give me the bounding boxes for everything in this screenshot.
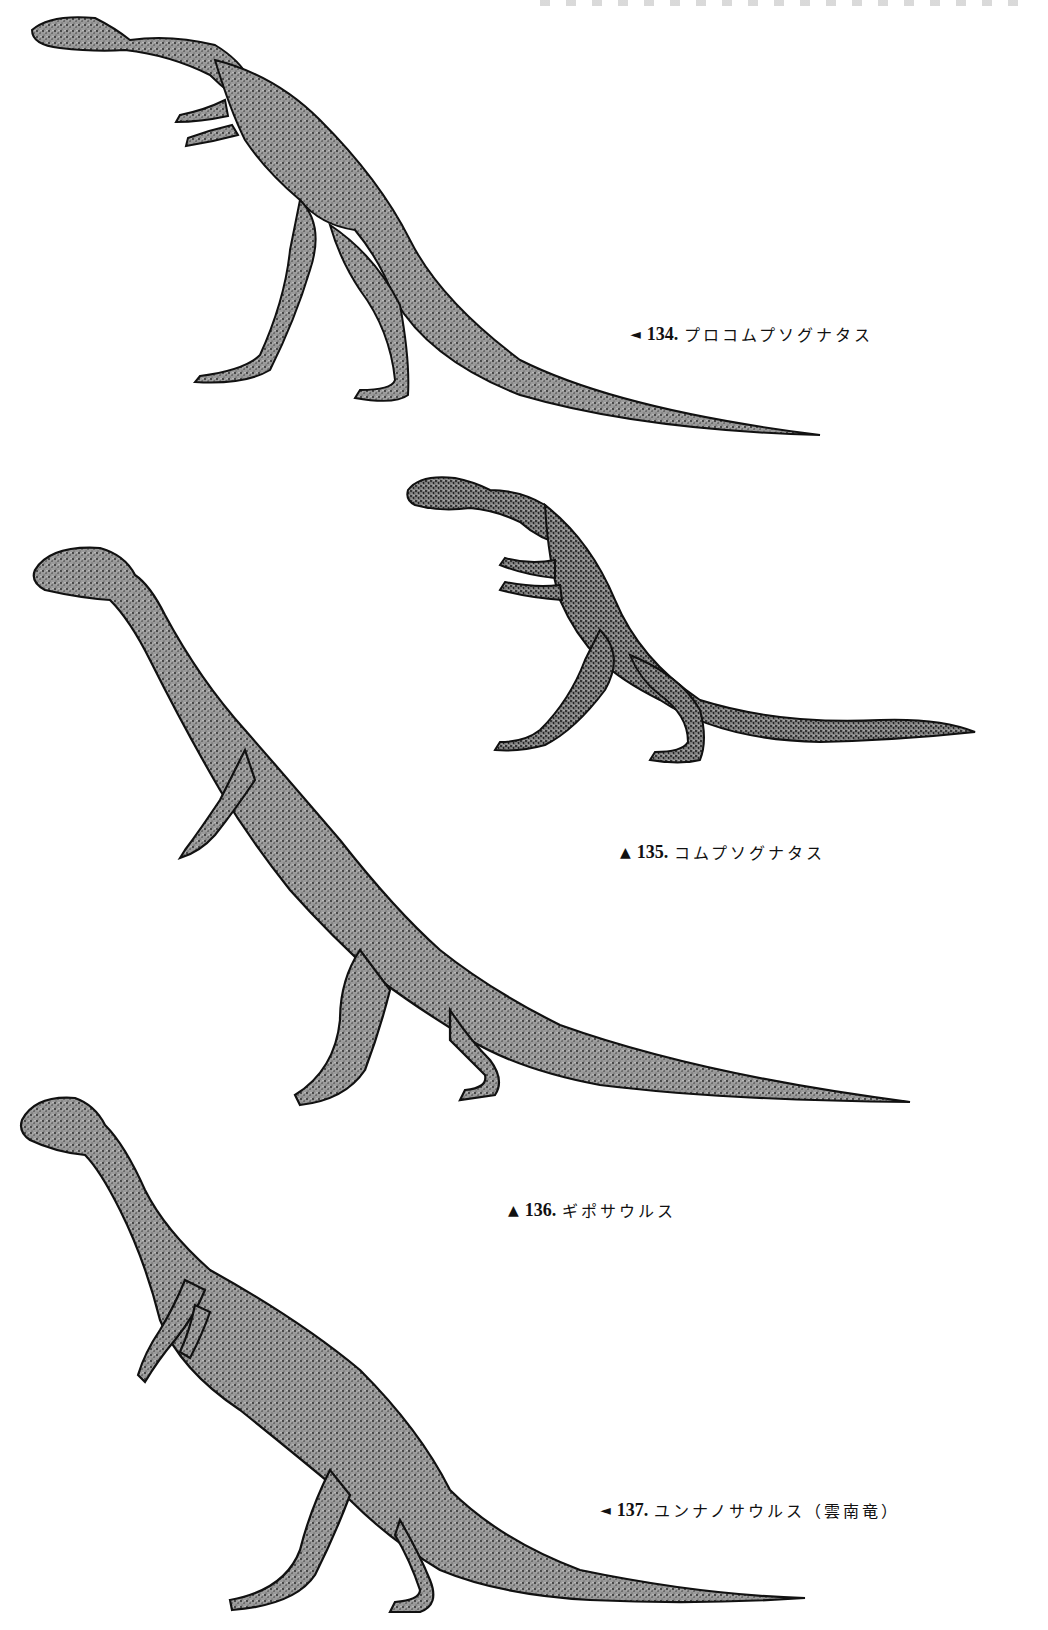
figure-136-gyposaurus-illustration [0,540,1048,1160]
figure-number: 134. [647,324,679,345]
figure-134-procompsognathus-illustration [0,0,1048,460]
figure-name: ユンナノサウルス（雲南竜） [654,1498,900,1522]
figure-caption-137: ◄ 137. ユンナノサウルス（雲南竜） [600,1498,900,1522]
dinosaur-illustration [0,0,1048,460]
figure-number: 137. [617,1500,649,1521]
left-arrow-icon: ◄ [630,326,641,342]
figure-caption-134: ◄ 134. プロコムプソグナタス [630,322,873,346]
dinosaur-illustration [0,540,1048,1160]
left-arrow-icon: ◄ [600,1502,611,1518]
figure-137-yunnanosaurus-illustration [0,1090,1048,1630]
figure-name: プロコムプソグナタス [684,322,873,346]
dinosaur-illustration [0,1090,1048,1630]
